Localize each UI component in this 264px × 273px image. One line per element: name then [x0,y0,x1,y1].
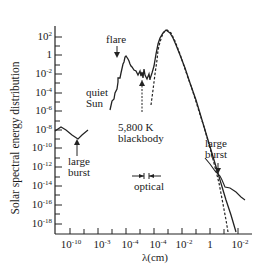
annotation-large-burst-right: largeburst [205,138,227,160]
x-axis-title: λ(cm) [135,251,175,263]
annotation-optical: optical [134,181,164,192]
y-tick-label: 10-10 [12,141,52,153]
annotation-flare: flare [106,34,126,45]
optical-range-marker [132,173,161,179]
x-tick-label: 10-2 [225,238,255,250]
y-tick-label: 10-8 [12,123,52,135]
y-tick-label: 10-14 [12,179,52,191]
arrowhead [149,174,154,178]
y-tick-label: 1 [12,48,52,60]
series-large-burst-radio [205,158,245,200]
x-ticks [70,228,238,234]
arrowhead [139,174,144,178]
x-tick-label: 10-10 [56,238,86,250]
y-tick-label: 10-2 [12,67,52,79]
x-tick-label: 1 [195,238,225,250]
series-large-burst-xray [55,127,88,139]
x-tick-label: 10-4 [115,238,145,250]
annotation-large-burst-left: largeburst [68,156,90,178]
y-tick-label: 102 [12,30,52,42]
y-tick-label: 10-18 [12,217,52,229]
y-tick-label: 10-4 [12,86,52,98]
y-tick-label: 10-16 [12,198,52,210]
y-axis-title: Solar spectral energy distribution [9,33,21,243]
arrowhead [139,80,145,86]
annotation-blackbody: 5,800 Kblackbody [118,122,164,144]
annotation-quiet-sun: quietSun [86,87,108,109]
arrowhead [114,52,120,58]
y-tick-label: 10-6 [12,104,52,116]
y-tick-label: 10-12 [12,160,52,172]
x-tick-label: 10-3 [87,238,117,250]
arrowhead [74,139,80,145]
